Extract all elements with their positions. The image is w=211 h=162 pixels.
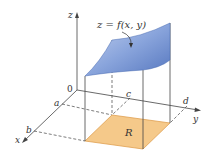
x-axis	[24, 90, 77, 141]
origin-label: 0	[67, 84, 73, 94]
bound-c-label: c	[126, 89, 131, 99]
z-arrow-icon	[75, 12, 79, 18]
bound-a-label: a	[54, 98, 59, 108]
z-axis-label: z	[67, 10, 73, 20]
y-axis	[77, 90, 198, 110]
region-label: R	[124, 127, 133, 138]
double-integral-diagram: z = f(x, y) R z y x 0 a b c d	[0, 0, 211, 162]
y-arrow-icon	[195, 108, 202, 113]
surface	[85, 23, 170, 76]
surface-label: z = f(x, y)	[96, 19, 146, 30]
y-axis-label: y	[192, 114, 199, 124]
bound-b-label: b	[26, 125, 32, 135]
x-axis-label: x	[15, 135, 20, 145]
bound-d-label: d	[183, 96, 189, 106]
